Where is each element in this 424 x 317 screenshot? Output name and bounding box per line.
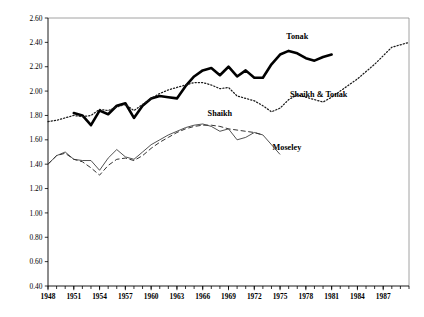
y-axis-tick-label: 1.60 bbox=[30, 135, 43, 144]
x-axis-tick-label: 1948 bbox=[41, 292, 56, 301]
y-axis-tick-label: 1.00 bbox=[30, 209, 43, 218]
x-axis-tick-label: 1966 bbox=[195, 292, 210, 301]
x-axis-tick-label: 1960 bbox=[144, 292, 159, 301]
series-label-shaikh-tonak: Shaikh & Tonak bbox=[290, 90, 348, 99]
y-axis-tick-label: 1.80 bbox=[30, 111, 43, 120]
series-label-shaikh: Shaikh bbox=[208, 109, 233, 118]
x-axis-tick-label: 1963 bbox=[170, 292, 185, 301]
y-axis-tick-label: 2.00 bbox=[30, 87, 43, 96]
y-axis-tick-label: 1.40 bbox=[30, 160, 43, 169]
x-axis-tick-label: 1981 bbox=[324, 292, 339, 301]
x-axis-tick-label: 1951 bbox=[66, 292, 81, 301]
y-axis-tick-label: 0.40 bbox=[30, 282, 43, 291]
x-axis-tick-label: 1975 bbox=[273, 292, 288, 301]
chart-container: 2.602.402.202.001.801.601.401.201.000.80… bbox=[0, 0, 424, 317]
x-axis-tick-label: 1984 bbox=[350, 292, 365, 301]
y-axis-tick-label: 2.40 bbox=[30, 38, 43, 47]
series-line-tonak bbox=[74, 51, 332, 125]
y-axis-tick-label: 1.20 bbox=[30, 184, 43, 193]
plot-axes bbox=[48, 18, 409, 286]
x-axis-tick-label: 1972 bbox=[247, 292, 262, 301]
plot-frame bbox=[48, 18, 409, 286]
y-axis-tick-label: 0.60 bbox=[30, 257, 43, 266]
x-axis-tick-label: 1957 bbox=[118, 292, 133, 301]
line-chart: 2.602.402.202.001.801.601.401.201.000.80… bbox=[0, 0, 424, 317]
x-axis-tick-label: 1978 bbox=[298, 292, 313, 301]
x-axis-tick-label: 1954 bbox=[92, 292, 107, 301]
y-axis-tick-label: 2.60 bbox=[30, 14, 43, 23]
x-axis-tick-label: 1987 bbox=[376, 292, 391, 301]
series-label-tonak: Tonak bbox=[286, 32, 308, 41]
series-line-shaikh bbox=[48, 125, 263, 175]
x-axis-tick-label: 1969 bbox=[221, 292, 236, 301]
series-label-moseley: Moseley bbox=[273, 143, 303, 152]
y-axis-tick-label: 2.20 bbox=[30, 62, 43, 71]
y-axis-tick-label: 0.80 bbox=[30, 233, 43, 242]
